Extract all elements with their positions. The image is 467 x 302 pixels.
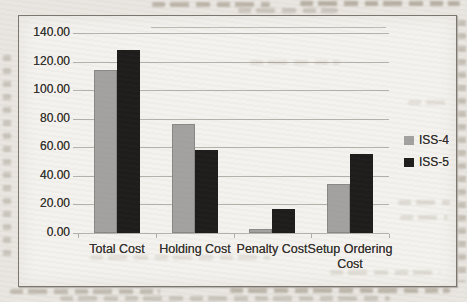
scan-artifact <box>408 100 450 105</box>
y-axis-tick-label: 140.00 <box>16 25 70 39</box>
legend-item: ISS-4 <box>404 133 449 147</box>
legend-label: ISS-5 <box>419 155 449 169</box>
y-axis-tick-label: 100.00 <box>16 82 70 96</box>
scan-artifact <box>230 288 450 293</box>
legend-swatch-iss-5 <box>404 158 414 167</box>
scan-artifact <box>238 8 338 13</box>
legend-item: ISS-5 <box>404 155 449 169</box>
bar-iss-5-holding-cost <box>195 150 218 233</box>
axis-tick <box>78 234 79 238</box>
scan-artifact <box>398 200 450 205</box>
bar-iss-5-penalty-cost <box>272 209 295 233</box>
axis-tick <box>156 234 157 238</box>
axis-tick <box>311 234 312 238</box>
bar-iss-4-holding-cost <box>172 124 195 233</box>
gridline <box>73 233 389 234</box>
legend: ISS-4ISS-5 <box>404 133 449 177</box>
legend-label: ISS-4 <box>419 133 449 147</box>
y-axis-tick-label: 40.00 <box>16 168 70 182</box>
y-axis-tick-label: 80.00 <box>16 111 70 125</box>
bar-iss-4-total-cost <box>94 70 117 233</box>
legend-swatch-iss-4 <box>404 136 414 145</box>
y-axis-tick-label: 20.00 <box>16 196 70 210</box>
scan-artifact <box>250 60 340 65</box>
bar-iss-4-penalty-cost <box>249 229 272 233</box>
scan-artifact <box>90 255 270 260</box>
x-axis-category-label: Setup Ordering Cost <box>300 242 400 272</box>
y-axis-tick-label: 0.00 <box>16 225 70 239</box>
bar-iss-5-setup-ordering-cost <box>350 154 373 233</box>
bar-iss-4-setup-ordering-cost <box>327 184 350 233</box>
chart-frame: 0.0020.0040.0060.0080.00100.00120.00140.… <box>18 15 457 287</box>
scan-artifact <box>151 27 386 28</box>
scan-artifact <box>300 1 460 6</box>
axis-tick <box>389 234 390 238</box>
scan-artifact <box>152 2 270 7</box>
bar-iss-5-total-cost <box>117 50 140 233</box>
scan-artifact <box>400 215 448 220</box>
y-axis-tick-label: 60.00 <box>16 139 70 153</box>
scan-artifact <box>10 289 160 294</box>
scan-artifact <box>60 296 390 301</box>
scan-artifact <box>330 270 440 275</box>
scan-artifact <box>458 20 466 282</box>
scanned-page: 0.0020.0040.0060.0080.00100.00120.00140.… <box>0 0 467 302</box>
gridline <box>73 33 389 34</box>
y-axis-tick-label: 120.00 <box>16 54 70 68</box>
axis-tick <box>234 234 235 238</box>
scan-artifact <box>3 55 11 260</box>
